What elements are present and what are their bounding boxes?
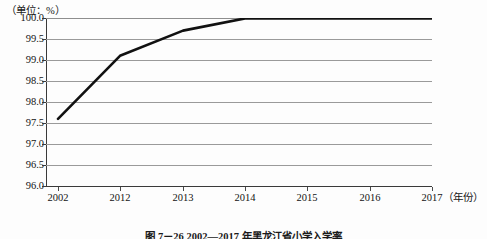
x-tick-mark-2017 [432,187,433,191]
x-tick-label-2012: 2012 [97,192,143,204]
y-tick-label-98.0: 98.0 [2,97,44,107]
y-tick-label-97.0: 97.0 [2,139,44,149]
x-tick-label-2002: 2002 [35,192,81,204]
y-tick-label-99.0: 99.0 [2,55,44,65]
y-tick-label-100.0: 100.0 [2,13,44,23]
x-tick-label-2016: 2016 [347,192,393,204]
y-tick-label-97.5: 97.5 [2,118,44,128]
x-tick-label-2014: 2014 [222,192,268,204]
y-tick-label-96.5: 96.5 [2,160,44,170]
plot-area [46,18,432,186]
x-tick-mark-2013 [183,187,184,191]
x-tick-mark-2014 [245,187,246,191]
x-tick-mark-2015 [307,187,308,191]
line-series-enrollment-rate [46,18,432,186]
gridline-96.0 [46,186,432,187]
x-tick-mark-2002 [58,187,59,191]
x-tick-label-2015: 2015 [284,192,330,204]
y-tick-label-98.5: 98.5 [2,76,44,86]
figure-container: （单位：%） 100.099.599.098.598.097.597.096.5… [0,0,487,239]
y-axis-tick-labels: 100.099.599.098.598.097.597.096.596.0 [0,18,44,186]
x-tick-mark-2016 [370,187,371,191]
figure-caption: 图 7－26 2002—2017 年黑龙江省小学入学率 [0,228,487,239]
x-tick-mark-2012 [120,187,121,191]
series-layer [46,18,432,186]
x-axis-name: （年份） [443,192,483,204]
x-tick-label-2013: 2013 [160,192,206,204]
y-tick-label-96.0: 96.0 [2,181,44,191]
y-tick-label-99.5: 99.5 [2,34,44,44]
